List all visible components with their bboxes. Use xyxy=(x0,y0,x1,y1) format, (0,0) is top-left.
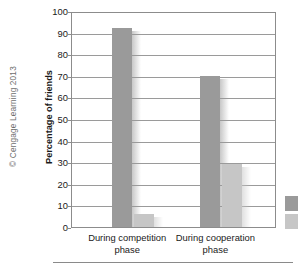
bar-face xyxy=(200,76,220,227)
gridline xyxy=(72,12,275,13)
bar-shadow xyxy=(132,31,141,227)
gridline xyxy=(72,142,275,143)
bar-shadow xyxy=(154,217,163,227)
legend-swatch xyxy=(285,196,298,211)
gridline xyxy=(72,120,275,121)
x-axis-tick-label-line: phase xyxy=(159,244,271,256)
y-axis-tick-label: 0 xyxy=(42,223,68,232)
legend xyxy=(285,196,298,232)
y-axis-tick-label: 70 xyxy=(42,72,68,81)
y-axis-tick-label: 80 xyxy=(42,50,68,59)
y-axis-tick-label: 50 xyxy=(42,115,68,124)
gridline xyxy=(72,163,275,164)
y-axis-tick-label: 10 xyxy=(42,202,68,211)
y-axis-tick-label: 40 xyxy=(42,137,68,146)
bar-face xyxy=(222,164,242,227)
gridline xyxy=(72,34,275,35)
x-axis-tick-label: During cooperationphase xyxy=(159,232,271,256)
y-axis-tick-label: 20 xyxy=(42,180,68,189)
bar xyxy=(200,76,220,227)
y-axis-tick-label: 60 xyxy=(42,94,68,103)
gridline xyxy=(72,77,275,78)
y-axis-tick-mark xyxy=(67,228,71,229)
bar-shadow xyxy=(242,167,251,227)
legend-swatch xyxy=(285,214,298,229)
bottom-rule xyxy=(53,262,293,263)
gridline xyxy=(72,98,275,99)
bar-face xyxy=(112,28,132,227)
gridline xyxy=(72,55,275,56)
y-axis-tick-label: 90 xyxy=(42,29,68,38)
bar xyxy=(134,214,154,227)
y-axis-tick-label: 30 xyxy=(42,158,68,167)
figure-container: © Cengage Learning 2013 Percentage of fr… xyxy=(0,0,302,271)
bar xyxy=(222,164,242,227)
bar xyxy=(112,28,132,227)
bar-face xyxy=(134,214,154,227)
y-axis-tick-label: 100 xyxy=(42,7,68,16)
x-axis-tick-label-line: During cooperation xyxy=(159,232,271,244)
copyright-credit: © Cengage Learning 2013 xyxy=(9,57,18,177)
plot-area xyxy=(71,12,276,228)
